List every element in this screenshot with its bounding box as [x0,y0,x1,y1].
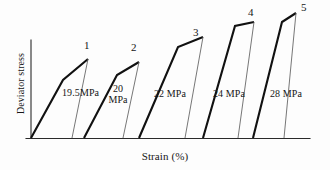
stress-label-2-unit: MPa [107,95,129,106]
deviator-stress-strain-figure: 1 2 3 4 5 19.5MPa 20 MPa 22 MPa 24 MPa 2… [0,0,330,170]
unloading-curve-4 [238,22,254,138]
curve-number-4: 4 [248,7,254,18]
stress-label-3: 22 MPa [154,88,186,99]
curve-number-3: 3 [193,27,199,38]
stress-label-2-value: 20 [107,84,129,95]
loading-curve-5 [253,13,296,138]
stress-label-5: 28 MPa [270,88,302,99]
stress-label-2: 20 MPa [107,84,129,105]
x-axis-label: Strain (%) [0,150,330,162]
stress-label-4: 24 MPa [213,88,245,99]
curve-number-2: 2 [131,42,137,53]
plot-area [0,0,330,170]
unloading-curve-3 [185,37,203,138]
curve-number-5: 5 [301,2,307,13]
loading-curve-1 [31,59,88,138]
stress-label-1: 19.5MPa [62,87,99,98]
y-axis-label: Deviator stress [15,24,26,144]
curve-number-1: 1 [84,40,90,51]
hysteresis-loops-group [31,13,296,138]
unloading-curve-5 [284,13,296,138]
